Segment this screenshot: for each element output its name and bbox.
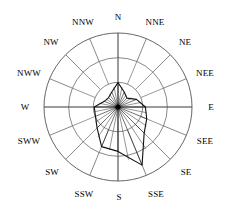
- grid-spoke-nw: [66, 55, 83, 72]
- center-dot: [115, 104, 120, 109]
- grid-spoke-inner-nne: [127, 61, 136, 84]
- direction-label-ssw: SSW: [75, 190, 94, 199]
- grid-spoke-inner-nw: [83, 72, 100, 89]
- direction-label-se: SE: [181, 168, 192, 177]
- grid-spoke-inner-ne: [135, 72, 152, 89]
- grid-spoke-nnw: [90, 39, 99, 62]
- wind-rose-figure: NNNENENEEESEESESSESSSWSWSWWWNWWNWNNW: [0, 0, 229, 211]
- direction-label-nww: NWW: [17, 69, 41, 78]
- grid-spoke-nww: [50, 79, 73, 88]
- data-ray-sw: [97, 107, 118, 128]
- direction-label-s: S: [116, 193, 121, 202]
- grid-spoke-sww: [50, 126, 73, 135]
- direction-label-nnw: NNW: [72, 18, 94, 27]
- grid-spoke-inner-nee: [141, 88, 164, 97]
- direction-label-see: SEE: [197, 137, 213, 146]
- grid-spoke-se: [153, 142, 170, 159]
- grid-spoke-inner-sww: [72, 116, 95, 125]
- grid-spoke-ssw: [90, 153, 99, 176]
- direction-label-sww: SWW: [18, 137, 40, 146]
- grid-spoke-ne: [153, 55, 170, 72]
- data-ray-se: [118, 107, 144, 133]
- direction-label-nee: NEE: [196, 69, 214, 78]
- direction-label-sw: SW: [45, 168, 59, 177]
- direction-label-n: N: [115, 13, 122, 22]
- direction-label-e: E: [208, 103, 214, 112]
- direction-label-sse: SSE: [148, 190, 164, 199]
- grid-spoke-see: [164, 126, 187, 135]
- grid-spoke-nee: [164, 79, 187, 88]
- direction-label-nw: NW: [43, 38, 58, 47]
- grid-spoke-inner-nww: [72, 88, 95, 97]
- grid-spoke-inner-nnw: [99, 61, 108, 84]
- direction-label-ne: NE: [179, 38, 191, 47]
- direction-label-w: W: [21, 103, 30, 112]
- direction-label-nne: NNE: [146, 18, 165, 27]
- grid-spoke-nne: [137, 39, 146, 62]
- grid-spoke-sw: [66, 142, 83, 159]
- wind-rose-plot: [0, 0, 229, 211]
